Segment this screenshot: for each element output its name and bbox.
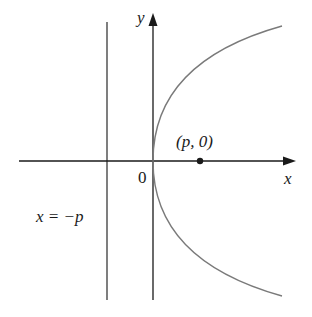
x-axis-arrowhead-icon [283, 157, 296, 166]
focus-label: (p, 0) [176, 133, 213, 150]
directrix-label: x = −p [36, 208, 84, 225]
y-axis-label: y [137, 9, 145, 26]
y-axis-arrowhead-icon [149, 13, 158, 26]
focus-point [197, 158, 203, 164]
parabola-diagram [0, 0, 312, 317]
origin-label: 0 [138, 169, 147, 186]
x-axis-label: x [284, 170, 292, 187]
